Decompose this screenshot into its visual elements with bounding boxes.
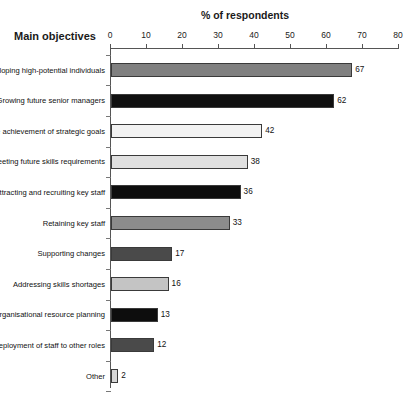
y-tick-mark <box>106 361 111 362</box>
bar <box>111 124 262 138</box>
y-tick-mark <box>106 55 111 56</box>
bar-category-label: Supporting changes <box>0 249 105 258</box>
y-tick-mark <box>106 269 111 270</box>
bar-category-label: Addressing skills shortages <box>0 280 105 289</box>
bar-row: Other2 <box>0 369 417 383</box>
bar-category-label: Attracting and recruiting key staff <box>0 188 105 197</box>
plot-area: Developing high-potential individuals67G… <box>0 0 417 398</box>
bar-row: Redeployment of staff to other roles12 <box>0 338 417 352</box>
y-tick-mark <box>106 330 111 331</box>
y-tick-mark <box>106 238 111 239</box>
bar-row: Growing future senior managers62 <box>0 94 417 108</box>
bar-value-label: 12 <box>157 338 166 352</box>
y-tick-mark <box>106 208 111 209</box>
bar-value-label: 16 <box>172 277 181 291</box>
bar-category-label: Other <box>0 372 105 381</box>
bar-value-label: 38 <box>251 155 260 169</box>
bar-category-label: Enabling the achievement of strategic go… <box>0 127 105 136</box>
bar <box>111 94 334 108</box>
bar <box>111 338 154 352</box>
y-tick-mark <box>106 85 111 86</box>
bar <box>111 155 248 169</box>
bar-category-label: Growing future senior managers <box>0 96 105 105</box>
bar-value-label: 17 <box>175 247 184 261</box>
bar-value-label: 62 <box>337 94 346 108</box>
bar-value-label: 67 <box>355 63 364 77</box>
y-tick-mark <box>106 177 111 178</box>
bar-category-label: Redeployment of staff to other roles <box>0 341 105 350</box>
bar-category-label: Developing high-potential individuals <box>0 66 105 75</box>
bar-category-label: Retaining key staff <box>0 219 105 228</box>
bar-row: Developing high-potential individuals67 <box>0 63 417 77</box>
bar <box>111 369 118 383</box>
bar <box>111 247 172 261</box>
y-tick-mark <box>106 300 111 301</box>
bar-category-label: Assisting organisational resource planni… <box>0 310 105 319</box>
bar-row: Enabling the achievement of strategic go… <box>0 124 417 138</box>
bar-chart: % of respondents Main objectives 0102030… <box>0 0 417 398</box>
bar-row: Attracting and recruiting key staff36 <box>0 185 417 199</box>
bar <box>111 277 169 291</box>
bar-value-label: 42 <box>265 124 274 138</box>
bar-value-label: 36 <box>244 185 253 199</box>
y-tick-mark <box>106 116 111 117</box>
bar-row: Meeting future skills requirements38 <box>0 155 417 169</box>
bar-row: Retaining key staff33 <box>0 216 417 230</box>
bar-row: Assisting organisational resource planni… <box>0 308 417 322</box>
bar-row: Supporting changes17 <box>0 247 417 261</box>
bar-value-label: 33 <box>233 216 242 230</box>
bar <box>111 63 352 77</box>
bar <box>111 308 158 322</box>
bar-category-label: Meeting future skills requirements <box>0 157 105 166</box>
bar-value-label: 13 <box>161 308 170 322</box>
bar-row: Addressing skills shortages16 <box>0 277 417 291</box>
bar-value-label: 2 <box>121 369 126 383</box>
bar <box>111 216 230 230</box>
bar <box>111 185 241 199</box>
y-tick-mark <box>106 391 111 392</box>
y-tick-mark <box>106 147 111 148</box>
